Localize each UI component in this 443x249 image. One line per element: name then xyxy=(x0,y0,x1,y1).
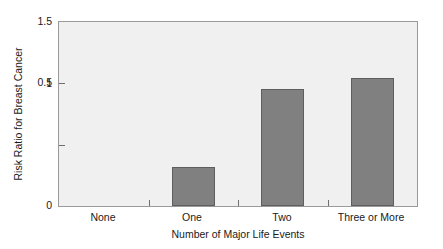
y-tick-label-1: 0.5 xyxy=(8,77,52,87)
x-tick-mark-2 xyxy=(238,200,239,206)
bar-one xyxy=(172,167,215,206)
y-tick-label-3: 1.5 xyxy=(8,16,52,26)
y-tick-mark-1 xyxy=(59,83,65,84)
y-tick-mark-0-5 xyxy=(59,145,65,146)
x-axis-tick-labels: None One Two Three or More xyxy=(58,210,418,226)
y-tick-label-0: 0 xyxy=(8,200,52,210)
x-tick-mark-1 xyxy=(149,200,150,206)
plot-area xyxy=(58,21,418,207)
bar-two xyxy=(261,89,304,206)
bar-three-or-more xyxy=(351,78,394,206)
x-axis-title: Number of Major Life Events xyxy=(58,227,418,241)
x-tick-label-three-or-more: Three or More xyxy=(311,210,431,224)
x-tick-mark-3 xyxy=(328,200,329,206)
bar-chart-figure: Risk Ratio for Breast Cancer 1.5 1 0.5 0… xyxy=(0,0,443,249)
